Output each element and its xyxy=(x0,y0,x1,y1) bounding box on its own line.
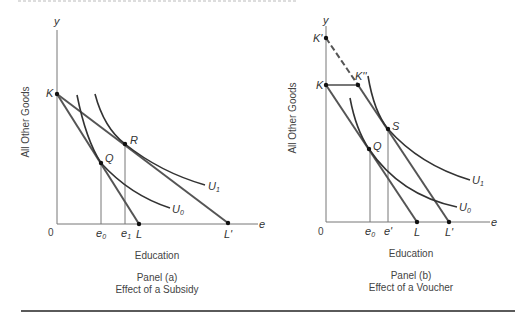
panel-b-label-L: L xyxy=(414,226,420,238)
panel-a-origin: 0 xyxy=(48,227,54,238)
panel-a-label-U1: U1 xyxy=(208,180,220,193)
panel-a-curve-U1 xyxy=(95,94,205,185)
panel-b-point-Kpp xyxy=(356,83,360,87)
panel-b-point-S xyxy=(386,127,390,131)
panel-a-point-Q xyxy=(99,161,103,165)
panel-b-label-Kp: K' xyxy=(313,32,323,44)
panel-b-label-S: S xyxy=(392,120,400,132)
panel-a-caption-title: Panel (a) xyxy=(97,272,217,284)
panel-b-x-title: Education xyxy=(389,248,433,259)
panel-b-y-symbol: y xyxy=(322,14,330,26)
panel-b-x-symbol: e xyxy=(491,216,497,228)
panel-a-label-R: R xyxy=(130,134,138,146)
panel-a-y-symbol: y xyxy=(53,15,61,27)
panel-b-label-U0: U0 xyxy=(459,201,471,214)
panel-b-caption-subtitle: Effect of a Voucher xyxy=(351,282,471,294)
panel-a-label-L: L xyxy=(136,228,142,240)
panel-a-label-K: K xyxy=(46,87,54,99)
panel-b-point-K xyxy=(324,83,328,87)
panel-b-curve-U1 xyxy=(368,76,470,180)
panel-a-y-title: All Other Goods xyxy=(20,86,31,157)
panel-b-label-U1: U1 xyxy=(472,174,484,187)
panel-a-caption: Panel (a) Effect of a Subsidy xyxy=(97,272,217,296)
panel-b-label-Q: Q xyxy=(373,140,382,152)
panel-a-point-L xyxy=(137,222,141,226)
panel-a-label-Q: Q xyxy=(105,152,114,164)
panel-a-tick-e1: e1 xyxy=(121,227,131,240)
panel-a-x-symbol: e xyxy=(259,218,265,230)
panel-a-label-Lp: L' xyxy=(224,228,233,240)
panel-b-caption: Panel (b) Effect of a Voucher xyxy=(351,270,471,294)
panel-b-label-Kpp: K'' xyxy=(355,70,367,82)
panel-a-budget-KLp xyxy=(57,94,228,223)
panel-a-point-Lp xyxy=(226,221,230,225)
panel-a-x-title: Education xyxy=(135,250,179,261)
panel-b-tick-e0: e0 xyxy=(365,225,375,238)
panel-b-point-Q xyxy=(367,147,371,151)
panel-b-dashed-KpKpp xyxy=(326,38,358,85)
panel-b-label-Lp: L' xyxy=(445,226,454,238)
panel-b-point-Lp xyxy=(447,220,451,224)
panel-a-point-K xyxy=(55,92,59,96)
panel-b-point-L xyxy=(415,220,419,224)
panel-b-y-title: All Other Goods xyxy=(287,82,298,153)
panel-b-tick-ep: e' xyxy=(384,225,393,237)
panel-a-tick-e0: e0 xyxy=(96,227,106,240)
panel-a-plot: y e 0 K Q R e0 e1 L L' U0 U1 All Other G… xyxy=(20,15,265,261)
panel-b-plot: y e 0 K' K K'' Q S e0 e' L L' U0 U1 All … xyxy=(287,14,497,259)
panel-a-caption-subtitle: Effect of a Subsidy xyxy=(97,284,217,296)
panel-a-curve-U0 xyxy=(77,95,170,208)
panel-a-point-R xyxy=(123,142,127,146)
bottom-rule xyxy=(21,310,515,312)
panel-b-label-K: K xyxy=(316,79,324,91)
panel-b-origin: 0 xyxy=(318,226,324,237)
panel-b-caption-title: Panel (b) xyxy=(351,270,471,282)
panel-a-label-U0: U0 xyxy=(172,203,184,216)
panel-b-point-Kp xyxy=(324,36,328,40)
